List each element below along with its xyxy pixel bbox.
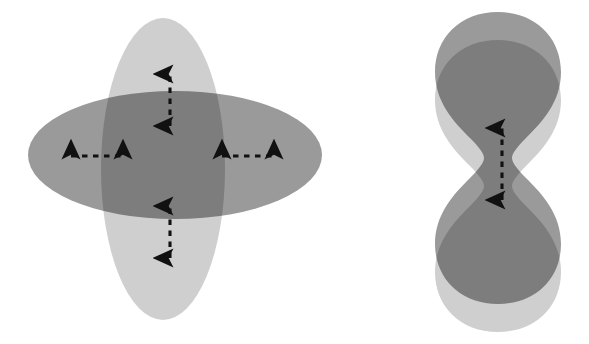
dumbbell-dark [435, 12, 561, 304]
figure-svg [0, 0, 589, 344]
right-panel-group [435, 12, 561, 332]
figure-canvas [0, 0, 589, 344]
left-panel-group [28, 18, 322, 320]
